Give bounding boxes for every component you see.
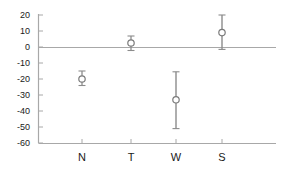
- datapoint-group-w: [173, 72, 180, 129]
- datapoint-group-n: [79, 71, 86, 86]
- marker-n: [79, 76, 85, 82]
- plot-area: [0, 0, 282, 170]
- marker-w: [173, 97, 179, 103]
- chart-container: 20 10 0 -10 -20 -30 -40 -50 -60 N T W S: [0, 0, 282, 170]
- marker-s: [219, 29, 225, 35]
- marker-t: [128, 40, 134, 46]
- datapoint-group-s: [219, 15, 226, 49]
- datapoint-group-t: [128, 36, 135, 51]
